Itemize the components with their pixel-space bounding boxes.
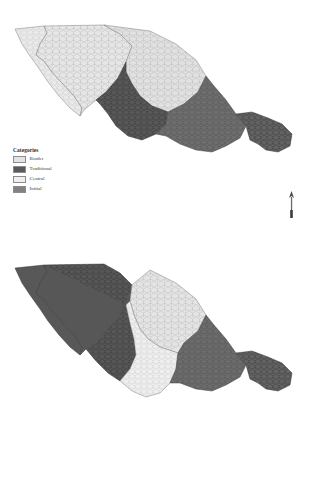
- map-regions-top: [0, 0, 314, 238]
- figure-page: Categories Border Traditional Central In…: [0, 0, 314, 477]
- legend-label: Border: [30, 156, 44, 162]
- map-figure-bottom: [0, 239, 314, 477]
- north-arrow-top: [287, 190, 296, 220]
- legend-label: Traditional: [30, 166, 52, 172]
- north-arrow-icon: [287, 190, 296, 220]
- legend-item: Central: [13, 175, 52, 183]
- map-panel-bottom: Categories North and Center Northwest We…: [0, 239, 314, 477]
- legend-title: Categories: [13, 147, 52, 153]
- legend-item: Initial: [13, 185, 52, 193]
- mexico-map-bottom: [0, 239, 314, 477]
- legend-swatch-traditional: [13, 166, 26, 173]
- legend-item: Border: [13, 155, 52, 163]
- legend-swatch-initial: [13, 186, 26, 193]
- legend-swatch-central: [13, 176, 26, 183]
- legend-swatch-border: [13, 156, 26, 163]
- legend-label: Initial: [30, 186, 42, 192]
- map-figure-top: [0, 0, 314, 238]
- mexico-map-top: [0, 0, 314, 238]
- legend-top: Categories Border Traditional Central In…: [13, 147, 52, 195]
- legend-label: Central: [30, 176, 45, 182]
- map-regions-bottom: [0, 239, 314, 477]
- legend-item: Traditional: [13, 165, 52, 173]
- map-panel-top: Categories Border Traditional Central In…: [0, 0, 314, 238]
